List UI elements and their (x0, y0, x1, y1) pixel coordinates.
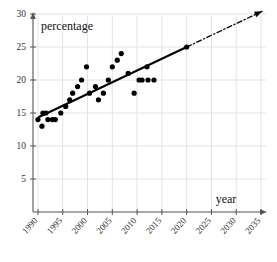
x-tick-label: 1990 (20, 215, 40, 235)
data-point (39, 124, 44, 129)
data-point (126, 71, 131, 76)
data-point (43, 110, 48, 115)
x-tick-label: 1995 (45, 215, 65, 235)
data-point (96, 97, 101, 102)
x-tick-label: 2035 (243, 215, 263, 235)
data-point (151, 77, 156, 82)
data-point (63, 104, 68, 109)
data-point (144, 64, 149, 69)
x-axis-title: year (216, 192, 237, 206)
chart-container: 51015202530 1990199520002005201020152020… (0, 0, 277, 262)
x-tick-label: 2000 (70, 215, 90, 235)
scatter-plot: 51015202530 1990199520002005201020152020… (0, 0, 277, 262)
data-point (106, 77, 111, 82)
data-point (119, 51, 124, 56)
x-tick-label: 2025 (193, 215, 213, 235)
y-tick-label: 15 (17, 108, 27, 118)
y-tick-label: 30 (17, 9, 27, 19)
x-tick-label: 2010 (119, 215, 139, 235)
data-point (84, 64, 89, 69)
data-point (110, 64, 115, 69)
data-point (75, 84, 80, 89)
x-tick-label: 2030 (218, 215, 238, 235)
data-point (79, 77, 84, 82)
data-point (132, 91, 137, 96)
y-axis-arrow-icon (30, 12, 36, 19)
data-point (101, 91, 106, 96)
x-tick-label: 2005 (94, 215, 114, 235)
data-point (45, 117, 50, 122)
y-tick-label: 20 (17, 75, 27, 85)
y-tick-label: 5 (21, 174, 26, 184)
trend-line-extrapolated (187, 11, 262, 47)
data-point (70, 91, 75, 96)
y-tick-label: 10 (17, 141, 27, 151)
data-point (58, 110, 63, 115)
x-tick-label: 2015 (144, 215, 164, 235)
data-point (87, 91, 92, 96)
data-point (35, 117, 40, 122)
x-tick-label: 2020 (169, 215, 189, 235)
data-point (67, 97, 72, 102)
data-point (184, 44, 189, 49)
data-point (53, 117, 58, 122)
y-tick-label: 25 (17, 42, 27, 52)
grid-lines (33, 14, 266, 212)
x-tick-labels: 1990199520002005201020152020202520302035 (20, 209, 263, 236)
data-point (145, 77, 150, 82)
data-point (115, 58, 120, 63)
data-point (139, 77, 144, 82)
y-axis-title: percentage (41, 19, 93, 33)
data-point (93, 84, 98, 89)
